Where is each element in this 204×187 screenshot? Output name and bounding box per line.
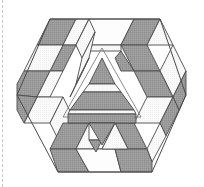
- center-triangle-band-gray-apex: [89, 58, 115, 84]
- bar-upper-left: [17, 19, 89, 97]
- center-triangle-band-gray-3: [68, 114, 136, 123]
- bar-lower-seg-gray-4: [115, 149, 152, 172]
- center-triangle-band-white-2: [68, 110, 136, 114]
- hexagon-impossible-figure: Hexagonal impossible figure Optical-illu…: [0, 0, 204, 187]
- center-triangle-band-gray-2: [70, 92, 134, 110]
- center-triangle-band-white-1: [83, 84, 121, 92]
- figure-canvas: Hexagonal impossible figure Optical-illu…: [0, 0, 204, 187]
